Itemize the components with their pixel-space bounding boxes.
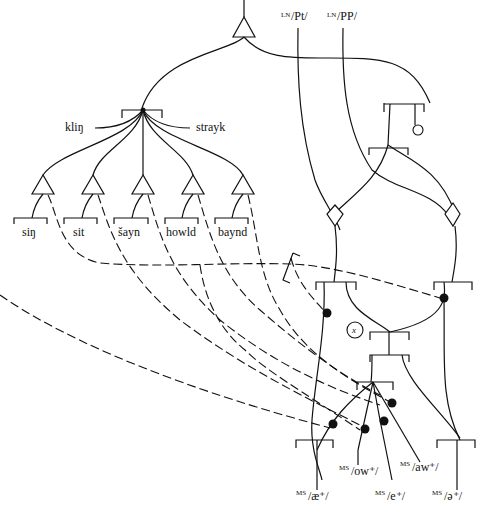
label-kling: kliŋ xyxy=(65,120,84,134)
lexeme-sing: siŋ xyxy=(22,225,36,239)
middle-and-nodes xyxy=(312,282,472,480)
label-ms-schwa: MS /ə⁺/ xyxy=(432,489,463,503)
label-ms-aw: MS /aw⁺/ xyxy=(400,460,439,474)
svg-text:LN: LN xyxy=(281,11,290,19)
svg-text:LN: LN xyxy=(327,11,336,19)
svg-text:MS: MS xyxy=(339,464,349,472)
lexeme-howld: howld xyxy=(166,225,196,239)
svg-text:MS: MS xyxy=(375,489,385,497)
lexeme-baynd: baynd xyxy=(218,225,247,239)
label-ms-ow: MS /ow⁺/ xyxy=(339,464,379,478)
relational-network-diagram: LN /Pt/ LN /PP/ kliŋ xyxy=(0,0,483,515)
label-ln-pp: LN /PP/ xyxy=(327,9,358,23)
label-ms-ae: MS /æ⁺/ xyxy=(296,489,329,503)
right-and-node xyxy=(338,103,455,213)
lexeme-shayn: šayn xyxy=(118,225,140,239)
svg-text:/PP/: /PP/ xyxy=(337,9,358,23)
svg-text:/ow⁺/: /ow⁺/ xyxy=(351,464,379,478)
label-ms-e: MS /e⁺/ xyxy=(375,489,406,503)
svg-text:/aw⁺/: /aw⁺/ xyxy=(412,460,439,474)
svg-text:/ə⁺/: /ə⁺/ xyxy=(444,489,463,503)
svg-text:/Pt/: /Pt/ xyxy=(291,9,308,23)
diamond-right xyxy=(445,203,460,226)
label-ln-pt: LN /Pt/ xyxy=(281,9,308,23)
label-strayk: strayk xyxy=(196,120,225,134)
pp-line xyxy=(343,28,448,215)
x-node-label: x xyxy=(351,325,356,335)
lexeme-sit: sit xyxy=(73,225,85,239)
svg-text:/e⁺/: /e⁺/ xyxy=(387,489,406,503)
svg-text:MS: MS xyxy=(400,460,410,468)
svg-text:MS: MS xyxy=(296,489,306,497)
bracket-junction xyxy=(283,253,300,283)
lexeme-hub xyxy=(43,108,243,176)
svg-text:MS: MS xyxy=(432,489,442,497)
svg-text:/æ⁺/: /æ⁺/ xyxy=(308,489,329,503)
